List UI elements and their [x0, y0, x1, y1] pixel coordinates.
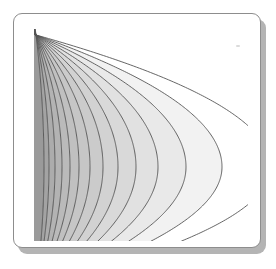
- figure-card-frame: [13, 13, 261, 248]
- scan-artifact-speck: [236, 45, 240, 47]
- contour-plot-svg: [34, 29, 248, 241]
- figure-root: [0, 0, 276, 269]
- contour-plot-canvas: [34, 29, 248, 241]
